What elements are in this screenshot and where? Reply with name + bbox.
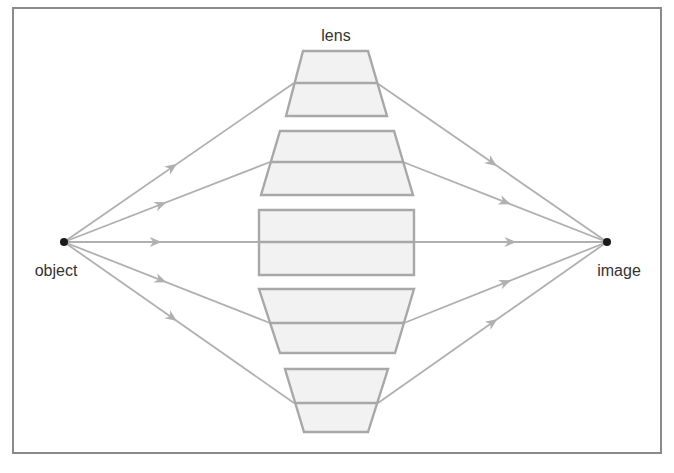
lens-segment-4 xyxy=(259,289,414,353)
object-label: object xyxy=(35,262,78,279)
lens-segment-3 xyxy=(259,210,414,275)
object-point xyxy=(60,238,68,246)
image-label: image xyxy=(597,262,641,279)
lens-diagram: lens object image xyxy=(0,0,674,473)
lens-segment-1 xyxy=(286,51,387,116)
image-point xyxy=(603,238,611,246)
lens-label: lens xyxy=(321,27,350,44)
lens-segment-body xyxy=(259,289,414,353)
lens-segment-2 xyxy=(261,131,413,195)
